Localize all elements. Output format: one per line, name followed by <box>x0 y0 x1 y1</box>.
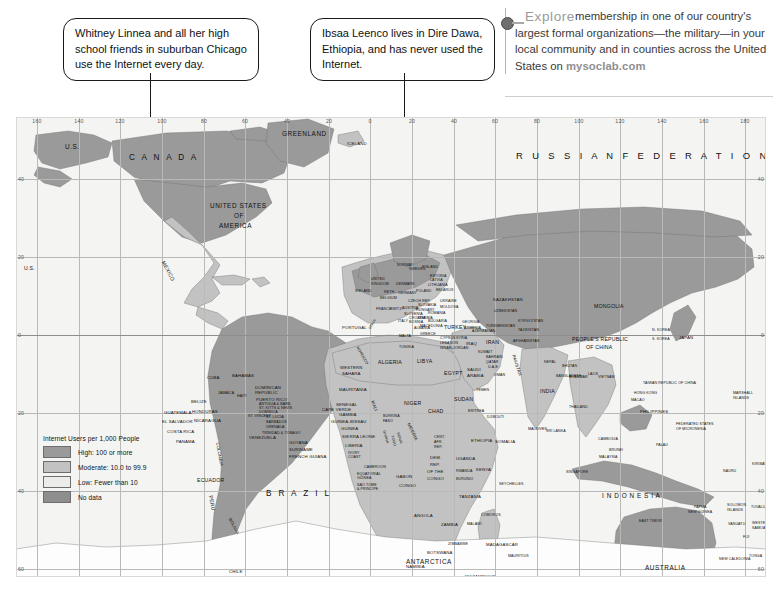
map-label-mauritius: MAURITIUS <box>508 554 529 558</box>
map-label-malawi: MALAWI <box>467 522 482 526</box>
map-label-sri-lanka: SRI LANKA <box>546 429 566 433</box>
map-label-ireland: IRELAND <box>355 289 371 293</box>
lat-tick-left-0: 40 <box>18 176 24 182</box>
map-label-slovakia: SLOVAKIA <box>418 303 436 307</box>
map-label-america: AMERICA <box>219 222 252 229</box>
map-label-sudan: SUDAN <box>454 396 473 402</box>
map-label-principe: & PRINCIPE <box>357 487 378 491</box>
map-label-ukraine: UKRAINE <box>440 299 457 303</box>
lat-tick-left-5: 60 <box>18 566 24 572</box>
map-label-mauritania: MAURITANIA <box>339 387 367 392</box>
meridian-120 <box>120 117 121 577</box>
map-label-qatar: QATAR <box>486 360 498 364</box>
map-label-mongolia: MONGOLIA <box>594 303 624 309</box>
map-label-kiribati: KIRIBATI <box>752 462 766 466</box>
meridian-100 <box>579 117 580 577</box>
map-label-rep: REP. <box>434 445 442 449</box>
map-label-new-guinea: NEW GUINEA <box>688 510 712 514</box>
parallel-1-20 <box>16 257 766 258</box>
map-label-eritrea: ERITREA <box>468 409 484 413</box>
map-label-lithuania: LITHUANIA <box>428 283 448 287</box>
map-label-tanzania: TANZANIA <box>459 494 481 499</box>
legend-swatch-nodata <box>43 491 71 503</box>
legend-item-nodata: No data <box>43 491 213 503</box>
map-label-poland: POLAND <box>416 289 431 293</box>
map-label-macao: MACAO <box>631 398 645 402</box>
world-map[interactable]: 1601401201008060402002040608010012014016… <box>16 117 766 577</box>
map-label-greenland: GREENLAND <box>282 130 327 137</box>
map-label-papua: PAPUA <box>694 505 706 509</box>
meridian-80 <box>204 117 205 577</box>
map-label-st-vincent: ST. VINCENT <box>248 414 271 418</box>
map-label-myanmar: MYANMAR <box>569 375 588 379</box>
explore-bullet-icon <box>501 17 514 30</box>
lon-tick-0: 160 <box>32 118 41 124</box>
map-label-iran: IRAN <box>486 339 499 345</box>
legend-label-low: Low: Fewer than 10 <box>78 479 138 486</box>
map-label-solomon: SOLOMON <box>727 503 746 507</box>
meridian-0 <box>370 117 371 577</box>
map-label-fiji: FIJI <box>743 535 749 539</box>
map-label-yemen: YEMEN <box>476 388 489 392</box>
meridian-140 <box>79 117 80 577</box>
map-label-seychelles: SEYCHELLES <box>499 482 524 486</box>
map-label-malaysia: MALAYSIA <box>599 455 618 459</box>
map-label-sahara: SAHARA <box>342 371 361 376</box>
map-label-neth: NETH. <box>384 290 395 294</box>
map-label-zambia: ZAMBIA <box>441 522 458 527</box>
map-label-nepal: NEPAL <box>544 360 556 364</box>
map-label-brunei: BRUNEI <box>609 448 623 452</box>
lon-tick-10: 40 <box>451 118 457 124</box>
map-label-el-salvador: EL SALVADOR <box>162 419 193 424</box>
map-label-greece: GREECE <box>420 332 436 336</box>
map-label-vanuatu: VANUATU <box>728 522 745 526</box>
lat-tick-right-5: 60 <box>758 566 764 572</box>
legend-swatch-low <box>43 476 71 488</box>
legend-item-low: Low: Fewer than 10 <box>43 476 213 488</box>
legend-item-moderate: Moderate: 10.0 to 99.9 <box>43 461 213 473</box>
map-label-liberia: LIBERIA <box>345 443 363 448</box>
map-label-samoa: SAMOA <box>752 526 765 530</box>
lon-tick-12: 80 <box>534 118 540 124</box>
lon-tick-7: 20 <box>326 118 332 124</box>
map-label-iraq: IRAQ <box>466 341 477 346</box>
map-label-guinea-bissau: GUINEA-BISSAU <box>331 419 367 424</box>
map-label-suriname: SURINAME <box>289 447 313 452</box>
map-label-of-micronesia: OF MICRONESIA <box>676 427 706 431</box>
map-label-italy: ITALY <box>398 319 408 323</box>
mysoclab-link[interactable]: mysoclab.com <box>566 60 646 72</box>
meridian-40 <box>287 117 288 577</box>
callout-ibsaa-leenco: Ibsaa Leenco lives in Dire Dawa, Ethiopi… <box>310 18 495 81</box>
meridian-20 <box>329 117 330 577</box>
map-label-afghanistan: AFGHANISTAN <box>513 339 539 343</box>
map-label-gambia: GAMBIA <box>339 412 357 417</box>
map-label-uganda: UGANDA <box>456 456 475 461</box>
map-label-c-a-n-a-d-a: C A N A D A <box>129 153 199 162</box>
map-label-tonga: TONGA <box>749 554 762 558</box>
lat-tick-left-3: 20 <box>18 410 24 416</box>
map-label-philippines: PHILIPPINES <box>640 409 668 414</box>
parallel-2-0 <box>16 335 766 336</box>
map-label-venezuela: VENEZUELA <box>249 435 276 440</box>
map-label-dem: DEM. <box>430 455 441 460</box>
map-label-germany: GERMANY <box>398 291 417 295</box>
map-label-somalia: SOMALIA <box>495 439 515 444</box>
map-label-latvia: LATVIA <box>430 278 443 282</box>
map-label-guinea: GUINEA <box>341 426 358 431</box>
map-label-costa-rica: COSTA RICA <box>167 429 194 434</box>
meridian-160 <box>37 117 38 577</box>
map-label-saudi: SAUDI <box>467 367 481 372</box>
map-label-cameroon: CAMEROON <box>364 465 386 469</box>
map-label-niger: NIGER <box>404 400 421 406</box>
lon-tick-1: 140 <box>74 118 83 124</box>
lat-tick-right-1: 20 <box>758 254 764 260</box>
map-label-marshall: MARSHALL <box>733 391 753 395</box>
map-label-india: INDIA <box>540 388 555 394</box>
map-label-burkina: BURKINA <box>383 414 400 418</box>
map-label-new-caledonia: NEW CALEDONIA <box>719 557 750 561</box>
map-label-n-korea: N. KOREA <box>652 328 670 332</box>
map-label-vietnam: VIETNAM <box>598 375 615 379</box>
lat-tick-right-4: 40 <box>758 488 764 494</box>
lat-tick-right-0: 40 <box>758 176 764 182</box>
callout-whitney-linnea: Whitney Linnea and all her high school f… <box>63 18 259 81</box>
